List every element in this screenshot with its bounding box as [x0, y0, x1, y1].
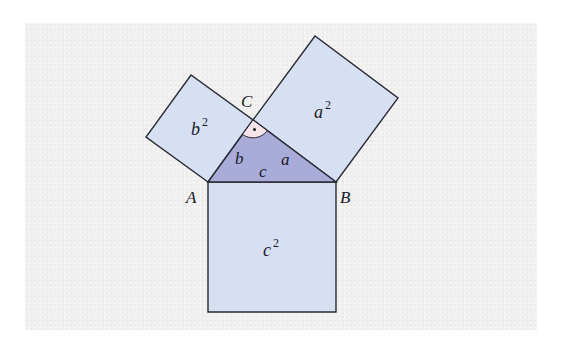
vertex-label-c: C	[241, 92, 253, 111]
vertex-label-b: B	[340, 188, 351, 207]
vertex-label-a: A	[185, 188, 197, 207]
square-c2	[208, 182, 336, 312]
pythagoras-diagram: A B C b a c b2 a2 c2	[0, 0, 566, 347]
side-label-a: a	[281, 150, 290, 169]
side-label-c: c	[259, 162, 267, 181]
side-label-b: b	[235, 149, 244, 168]
right-angle-dot	[253, 128, 256, 131]
